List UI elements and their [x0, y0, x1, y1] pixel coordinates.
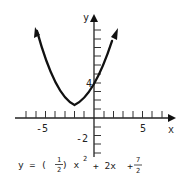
y-ticks [94, 30, 101, 153]
y-tick-label-4: 4 [86, 78, 92, 89]
equation-frac1-den: 2 [57, 166, 61, 174]
equation-exponent: 2 [83, 155, 87, 163]
equation-frac1-num: 1 [57, 156, 61, 164]
y-tick-label-neg2: -2 [76, 133, 88, 144]
x-tick-label-5: 5 [140, 123, 146, 134]
equation-lhs: y = ( [18, 159, 47, 170]
equation-plus-terms: + 2x + [93, 160, 133, 171]
equation: y = ( 1 2 ) x 2 + 2x + 7 2 [18, 155, 142, 175]
equation-mid: ) x [62, 159, 79, 170]
parabola-curve [37, 31, 112, 105]
y-axis-label: y [83, 12, 89, 23]
parabola-graph: y x -5 5 4 -2 y = ( 1 2 ) x 2 + 2x + 7 2 [0, 0, 184, 184]
x-axis-label: x [168, 124, 174, 135]
equation-frac2-den: 2 [136, 167, 140, 175]
curve-arrow-right-icon [111, 28, 118, 40]
x-tick-label-neg5: -5 [36, 123, 48, 134]
equation-frac2-num: 7 [136, 156, 140, 164]
